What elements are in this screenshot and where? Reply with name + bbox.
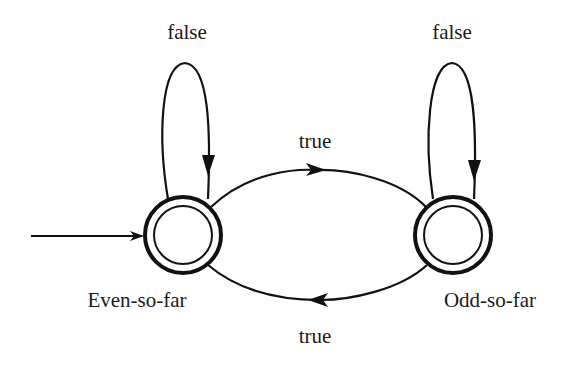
transition-odd-to-even: true [208,265,427,348]
state-even-so-far[interactable]: Even-so-far [87,197,221,312]
state-diagram: false false true true Even-so-far Odd-so… [0,0,577,370]
arrow-icon [202,155,215,176]
state-odd-so-far[interactable]: Odd-so-far [415,197,536,312]
arrow-icon [468,160,481,181]
transition-label-even-false: false [167,20,207,44]
self-loop-odd: false [429,20,481,199]
self-loop-even: false [162,20,215,199]
transition-label-odd-to-even: true [299,324,332,348]
transition-even-to-odd: true [211,129,426,207]
state-label-even: Even-so-far [87,288,186,312]
transition-label-even-to-odd: true [299,129,332,153]
state-label-odd: Odd-so-far [444,288,536,312]
transition-label-odd-false: false [432,20,472,44]
